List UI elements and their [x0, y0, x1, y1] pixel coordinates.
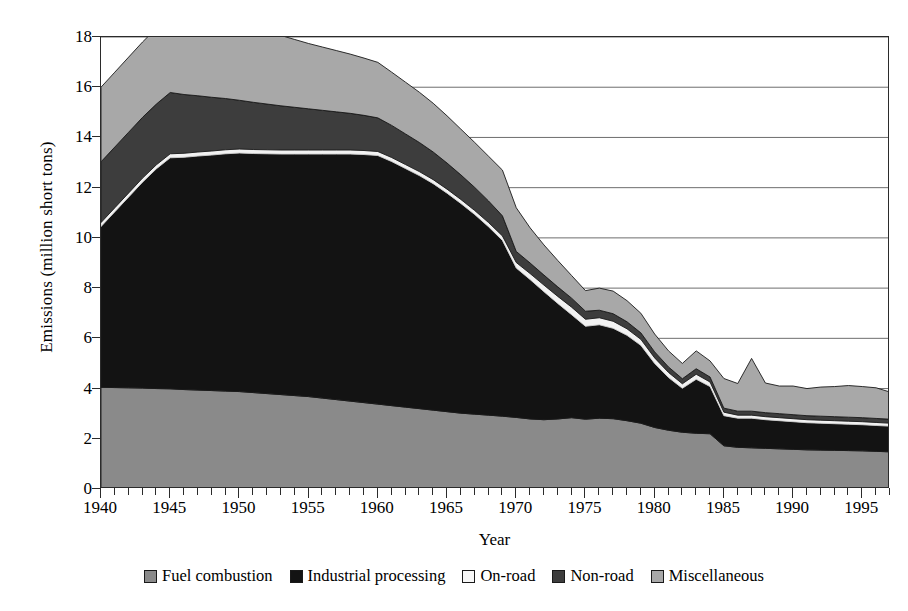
legend-item: Non-road: [552, 566, 633, 586]
x-axis-minor-tick: [543, 488, 544, 495]
y-axis-tick-label: 0: [48, 480, 92, 497]
x-axis-minor-tick: [557, 488, 558, 495]
legend-item: Industrial processing: [290, 566, 446, 586]
x-axis-minor-tick: [847, 488, 848, 495]
x-axis-tick-label: 1955: [291, 498, 325, 518]
y-axis-tick-label: 6: [48, 329, 92, 346]
x-axis-minor-tick: [294, 488, 295, 495]
x-axis-major-tick: [377, 488, 378, 498]
x-axis-minor-tick: [889, 488, 890, 495]
x-axis-minor-tick: [764, 488, 765, 495]
x-axis-minor-tick: [778, 488, 779, 495]
y-axis-tick-label: 18: [48, 28, 92, 45]
stacked-area-svg: [101, 37, 889, 488]
x-axis-tick-label: 1960: [360, 498, 394, 518]
legend-label: On-road: [480, 566, 535, 586]
x-axis-major-tick: [584, 488, 585, 498]
x-axis-tick-label: 1945: [152, 498, 186, 518]
x-axis-minor-tick: [529, 488, 530, 495]
y-axis-tick-label: 12: [48, 178, 92, 195]
x-axis-minor-tick: [571, 488, 572, 495]
x-axis-minor-tick: [875, 488, 876, 495]
chart-legend: Fuel combustionIndustrial processingOn-r…: [0, 566, 908, 586]
x-axis-minor-tick: [391, 488, 392, 495]
y-axis-tick-label: 10: [48, 228, 92, 245]
x-axis-tick-label: 1950: [221, 498, 255, 518]
x-axis-major-tick: [792, 488, 793, 498]
x-axis-major-tick: [238, 488, 239, 498]
x-axis-major-tick: [515, 488, 516, 498]
x-axis-title: Year: [100, 530, 889, 550]
legend-swatch-icon: [290, 570, 303, 583]
legend-item: On-road: [462, 566, 535, 586]
x-axis-minor-tick: [695, 488, 696, 495]
legend-swatch-icon: [462, 570, 475, 583]
x-axis-minor-tick: [183, 488, 184, 495]
x-axis-tick-label: 1940: [83, 498, 117, 518]
x-axis-minor-tick: [432, 488, 433, 495]
x-axis-minor-tick: [501, 488, 502, 495]
x-axis-tick-label: 1995: [844, 498, 878, 518]
x-axis-minor-tick: [114, 488, 115, 495]
y-axis-tick-label: 16: [48, 78, 92, 95]
x-axis-minor-tick: [321, 488, 322, 495]
x-axis-tick-label: 1975: [567, 498, 601, 518]
x-axis-major-tick: [723, 488, 724, 498]
x-axis-tick-marks: [100, 488, 889, 498]
y-axis-tick-label: 4: [48, 379, 92, 396]
x-axis-tick-label: 1965: [429, 498, 463, 518]
x-axis-minor-tick: [598, 488, 599, 495]
x-axis-minor-tick: [612, 488, 613, 495]
y-axis-tick-label: 2: [48, 429, 92, 446]
x-axis-minor-tick: [488, 488, 489, 495]
x-axis-major-tick: [308, 488, 309, 498]
x-axis-minor-tick: [834, 488, 835, 495]
x-axis-tick-label: 1970: [498, 498, 532, 518]
x-axis-tick-label: 1980: [637, 498, 671, 518]
x-axis-major-tick: [654, 488, 655, 498]
x-axis-minor-tick: [252, 488, 253, 495]
x-axis-minor-tick: [335, 488, 336, 495]
x-axis-minor-tick: [737, 488, 738, 495]
x-axis-tick-labels: 1940194519501955196019651970197519801985…: [0, 498, 908, 526]
x-axis-tick-label: 1985: [706, 498, 740, 518]
x-axis-minor-tick: [266, 488, 267, 495]
x-axis-minor-tick: [681, 488, 682, 495]
x-axis-minor-tick: [128, 488, 129, 495]
y-axis-tick-label: 14: [48, 128, 92, 145]
x-axis-minor-tick: [363, 488, 364, 495]
x-axis-minor-tick: [820, 488, 821, 495]
x-axis-minor-tick: [474, 488, 475, 495]
x-axis-minor-tick: [225, 488, 226, 495]
x-axis-minor-tick: [280, 488, 281, 495]
legend-swatch-icon: [552, 570, 565, 583]
x-axis-minor-tick: [142, 488, 143, 495]
x-axis-minor-tick: [418, 488, 419, 495]
y-axis-tick-label: 8: [48, 279, 92, 296]
x-axis-major-tick: [100, 488, 101, 498]
x-axis-minor-tick: [751, 488, 752, 495]
x-axis-minor-tick: [668, 488, 669, 495]
legend-label: Non-road: [570, 566, 633, 586]
x-axis-minor-tick: [806, 488, 807, 495]
x-axis-minor-tick: [349, 488, 350, 495]
legend-swatch-icon: [144, 570, 157, 583]
y-axis-tick-labels: 024681012141618: [40, 36, 92, 488]
x-axis-minor-tick: [155, 488, 156, 495]
chart-figure: Emissions (million short tons) 024681012…: [0, 0, 908, 611]
x-axis-major-tick: [446, 488, 447, 498]
legend-label: Miscellaneous: [669, 566, 764, 586]
x-axis-major-tick: [169, 488, 170, 498]
x-axis-major-tick: [861, 488, 862, 498]
x-axis-minor-tick: [709, 488, 710, 495]
x-axis-minor-tick: [460, 488, 461, 495]
legend-label: Industrial processing: [308, 566, 446, 586]
legend-item: Fuel combustion: [144, 566, 272, 586]
x-axis-minor-tick: [197, 488, 198, 495]
legend-label: Fuel combustion: [162, 566, 272, 586]
x-axis-minor-tick: [640, 488, 641, 495]
x-axis-minor-tick: [211, 488, 212, 495]
x-axis-minor-tick: [626, 488, 627, 495]
legend-item: Miscellaneous: [651, 566, 764, 586]
plot-area: [100, 36, 889, 488]
